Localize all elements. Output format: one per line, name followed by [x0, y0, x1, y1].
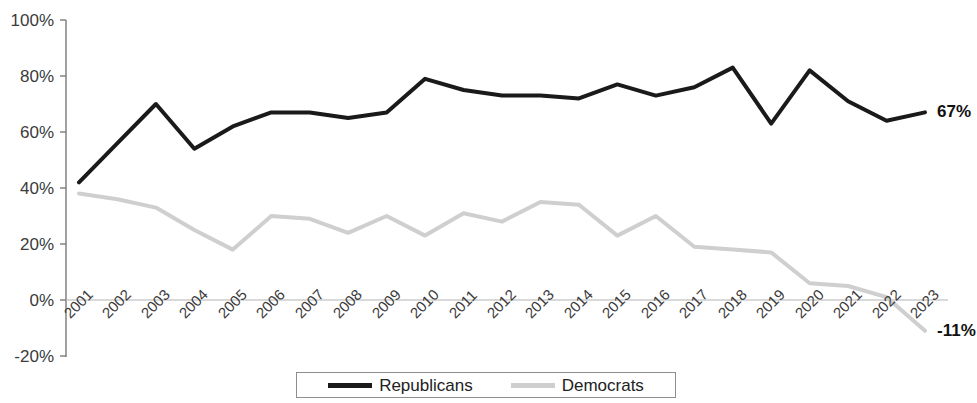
- legend-label: Democrats: [562, 377, 644, 394]
- legend-swatch-icon: [328, 383, 372, 388]
- series-line-republicans: [79, 68, 925, 183]
- legend-swatch-icon: [511, 383, 555, 388]
- y-axis-tick-label: 40%: [0, 180, 54, 197]
- chart-legend: RepublicansDemocrats: [296, 372, 676, 398]
- y-axis-tick-label: -20%: [0, 348, 54, 365]
- series-end-label-democrats: -11%: [937, 322, 976, 339]
- series-end-label-republicans: 67%: [937, 103, 971, 120]
- y-axis-tick-label: 60%: [0, 124, 54, 141]
- legend-label: Republicans: [379, 377, 473, 394]
- y-axis-tick-label: 100%: [0, 12, 54, 29]
- y-axis-tick-label: 80%: [0, 68, 54, 85]
- y-axis-tick-label: 0%: [0, 292, 54, 309]
- chart-container: 100%80%60%40%20%0%-20% 20012002200320042…: [0, 0, 977, 403]
- legend-entry-republicans[interactable]: Republicans: [328, 377, 473, 394]
- y-axis-tick-label: 20%: [0, 236, 54, 253]
- legend-entry-democrats[interactable]: Democrats: [511, 377, 644, 394]
- line-chart-plot: [0, 0, 977, 403]
